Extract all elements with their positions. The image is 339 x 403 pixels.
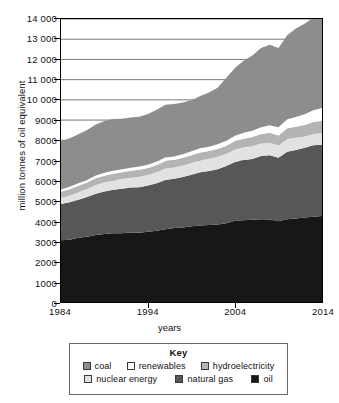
y-axis-tick-mark: [54, 242, 60, 243]
x-axis-tick-mark: [235, 303, 236, 308]
y-axis-tick: 10 000: [27, 94, 57, 105]
legend-item-hydroelectricity[interactable]: hydroelectricity: [201, 361, 275, 371]
y-axis-tick-mark: [54, 201, 60, 202]
stacked-area-chart-figure: million tonnes of oil equivalent years K…: [0, 0, 339, 403]
legend-item-natural-gas[interactable]: natural gas: [175, 374, 233, 384]
y-axis-tick-mark: [54, 140, 60, 141]
legend-label: oil: [263, 374, 272, 384]
legend-label: nuclear energy: [96, 374, 157, 384]
y-axis-title: million tonnes of oil equivalent: [16, 41, 27, 251]
legend-row: coalrenewableshydroelectricity: [70, 361, 287, 371]
x-axis-tick-mark: [148, 303, 149, 308]
legend-label: natural gas: [187, 374, 233, 384]
legend-swatch-nuclear-energy-icon: [84, 375, 92, 383]
y-axis-tick-mark: [54, 283, 60, 284]
legend-item-oil[interactable]: oil: [251, 374, 272, 384]
area-chart-svg: [61, 19, 322, 302]
y-axis-tick-mark: [54, 59, 60, 60]
y-axis-tick: 14 000: [27, 13, 57, 24]
legend-item-coal[interactable]: coal: [83, 361, 112, 371]
y-axis-tick-mark: [54, 18, 60, 19]
y-axis-tick-mark: [54, 99, 60, 100]
legend-label: coal: [95, 361, 112, 371]
legend-item-nuclear-energy[interactable]: nuclear energy: [84, 374, 157, 384]
y-axis-tick-mark: [54, 79, 60, 80]
legend-rows: coalrenewableshydroelectricitynuclear en…: [70, 361, 287, 384]
legend-row: nuclear energynatural gasoil: [70, 374, 287, 384]
y-axis-tick-mark: [54, 262, 60, 263]
y-axis-tick-mark: [54, 181, 60, 182]
legend-swatch-oil-icon: [251, 375, 259, 383]
y-axis-tick: 11 000: [27, 74, 57, 85]
legend-swatch-hydroelectricity-icon: [201, 362, 209, 370]
y-axis-tick: 13 000: [27, 33, 57, 44]
y-axis-tick-mark: [54, 38, 60, 39]
legend-swatch-renewables-icon: [127, 362, 135, 370]
x-axis-tick: 1984: [49, 306, 71, 317]
y-axis-tick-mark: [54, 222, 60, 223]
legend-swatch-coal-icon: [83, 362, 91, 370]
x-axis-title: years: [0, 322, 339, 333]
legend-title: Key: [70, 347, 287, 358]
y-axis-tick-mark: [54, 120, 60, 121]
y-axis-tick-mark: [54, 303, 60, 304]
x-axis-tick: 2014: [312, 306, 334, 317]
legend-label: hydroelectricity: [213, 361, 275, 371]
legend-label: renewables: [139, 361, 186, 371]
y-axis-tick-mark: [54, 161, 60, 162]
legend-item-renewables[interactable]: renewables: [127, 361, 186, 371]
legend-swatch-natural-gas-icon: [175, 375, 183, 383]
y-axis-tick: 12 000: [27, 53, 57, 64]
plot-area: [60, 18, 323, 303]
legend-key-box: Key coalrenewableshydroelectricitynuclea…: [69, 343, 288, 395]
